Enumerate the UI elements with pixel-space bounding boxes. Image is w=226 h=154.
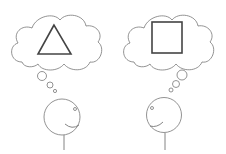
thought-cloud-right: [124, 15, 214, 70]
thought-bubble-small: [53, 89, 56, 92]
thought-bubble-large: [38, 72, 47, 81]
figure-right: [124, 15, 214, 150]
head-left: [44, 99, 80, 135]
diagram-canvas: [0, 0, 226, 154]
thought-bubble-medium: [47, 82, 53, 88]
thought-bubble-medium: [173, 81, 180, 88]
thought-bubble-large: [177, 70, 187, 80]
eye-left: [74, 108, 77, 111]
thought-cloud-left: [12, 15, 102, 70]
head-right: [147, 98, 182, 133]
figure-left: [12, 15, 102, 150]
thought-bubble-small: [169, 88, 173, 92]
eye-right: [151, 107, 154, 110]
